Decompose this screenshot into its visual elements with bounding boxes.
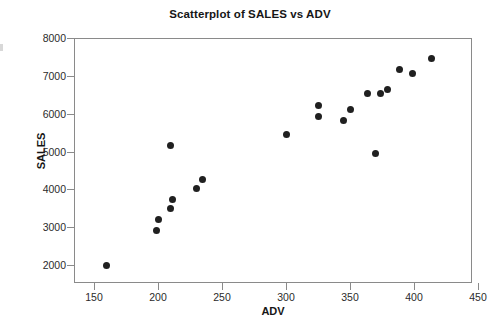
y-tick-label: 6000 — [26, 109, 66, 119]
y-tick-mark — [67, 227, 74, 228]
y-tick-mark — [67, 189, 74, 190]
y-tick-label: 3000 — [26, 222, 66, 232]
x-tick-label: 350 — [328, 292, 372, 303]
x-tick-mark — [414, 283, 415, 290]
x-tick-label: 200 — [136, 292, 180, 303]
y-axis-group: SALES — [12, 0, 64, 322]
x-tick-label: 400 — [392, 292, 436, 303]
image-edge-artifact — [0, 44, 3, 51]
y-tick-label: 4000 — [26, 184, 66, 194]
x-tick-mark — [222, 283, 223, 290]
scatterplot-figure: Scatterplot of SALES vs ADV SALES 200030… — [0, 0, 500, 322]
plot-area — [74, 38, 472, 283]
x-tick-label: 300 — [264, 292, 308, 303]
x-axis-title: ADV — [74, 305, 472, 317]
x-tick-mark — [350, 283, 351, 290]
y-tick-mark — [67, 152, 74, 153]
y-tick-mark — [67, 114, 74, 115]
x-tick-mark — [478, 283, 479, 290]
x-tick-label: 450 — [456, 292, 500, 303]
x-tick-mark — [158, 283, 159, 290]
x-tick-mark — [286, 283, 287, 290]
y-tick-label: 5000 — [26, 147, 66, 157]
y-tick-label: 8000 — [26, 33, 66, 43]
y-tick-mark — [67, 38, 74, 39]
y-tick-label: 7000 — [26, 71, 66, 81]
x-tick-mark — [94, 283, 95, 290]
chart-title: Scatterplot of SALES vs ADV — [0, 8, 500, 20]
y-tick-label: 2000 — [26, 260, 66, 270]
x-tick-label: 150 — [72, 292, 116, 303]
y-tick-mark — [67, 265, 74, 266]
y-tick-mark — [67, 76, 74, 77]
x-tick-label: 250 — [200, 292, 244, 303]
